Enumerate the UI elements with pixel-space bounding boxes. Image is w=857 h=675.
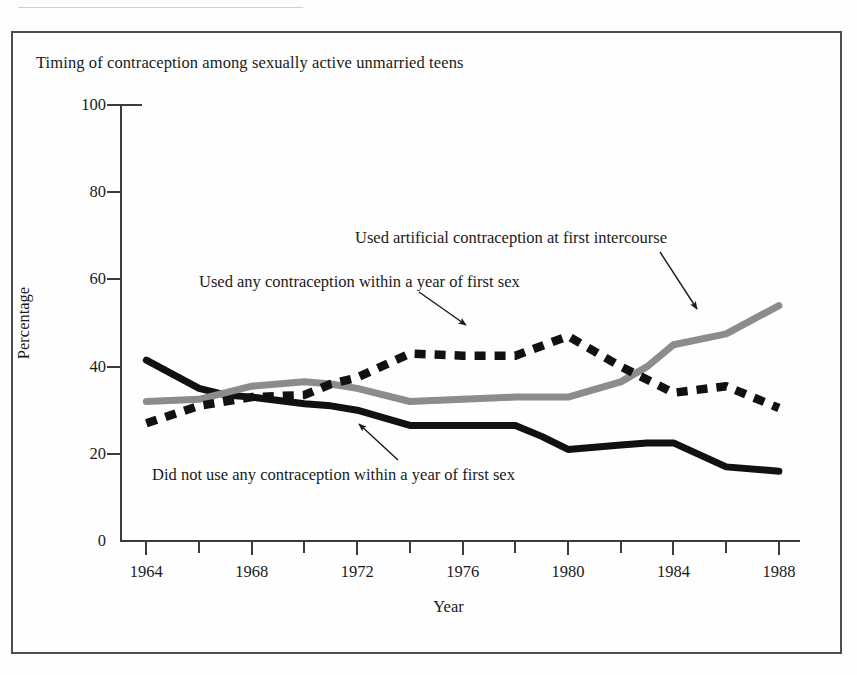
x-axis-tick-major — [356, 542, 358, 555]
x-axis-tick-major — [567, 542, 569, 555]
x-axis-tick-label: 1984 — [638, 562, 708, 582]
x-axis-tick-label: 1964 — [111, 562, 181, 582]
y-axis-title: Percentage — [14, 287, 34, 359]
x-axis-tick-major — [251, 542, 253, 555]
x-axis-tick-major — [462, 542, 464, 555]
x-axis-tick-minor — [409, 542, 411, 553]
x-axis-tick-label: 1988 — [744, 562, 814, 582]
x-axis-tick-label: 1976 — [428, 562, 498, 582]
annotation-used-artificial-contraception: Used artificial contraception at first i… — [355, 228, 667, 248]
y-axis-line — [120, 104, 122, 542]
y-axis-tick-label: 80 — [46, 182, 106, 202]
x-axis-tick-minor — [620, 542, 622, 553]
x-axis-tick-minor — [198, 542, 200, 553]
y-axis-tick — [107, 104, 122, 106]
y-axis-tick — [107, 453, 122, 455]
x-axis-tick-minor — [303, 542, 305, 553]
x-axis-tick-minor — [725, 542, 727, 553]
y-axis-top-stub — [120, 104, 142, 106]
y-axis-tick — [107, 366, 122, 368]
x-axis-tick-major — [672, 542, 674, 555]
x-axis-tick-major — [778, 542, 780, 555]
x-axis-title: Year — [0, 597, 857, 617]
y-axis-tick-label: 40 — [46, 357, 106, 377]
y-axis-tick-label: 60 — [46, 269, 106, 289]
page-top-bleed-text: ——————————————————— — [18, 0, 618, 12]
y-axis-tick-label: 20 — [46, 444, 106, 464]
y-axis-tick — [107, 278, 122, 280]
x-axis-line — [120, 540, 800, 542]
x-axis-tick-minor — [514, 542, 516, 553]
y-axis-tick — [107, 191, 122, 193]
chart-title: Timing of contraception among sexually a… — [36, 53, 464, 73]
y-axis-tick-label: 100 — [46, 95, 106, 115]
annotation-used-any-contraception: Used any contraception within a year of … — [199, 272, 520, 292]
figure-frame — [11, 31, 842, 654]
x-axis-tick-label: 1980 — [533, 562, 603, 582]
x-axis-tick-major — [145, 542, 147, 555]
x-axis-tick-label: 1972 — [322, 562, 392, 582]
annotation-did-not-use-any-contraception: Did not use any contraception within a y… — [152, 465, 515, 485]
y-axis-tick-label: 0 — [46, 531, 106, 551]
x-axis-tick-label: 1968 — [217, 562, 287, 582]
